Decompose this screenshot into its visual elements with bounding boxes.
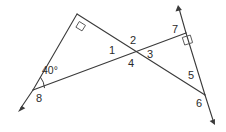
angle-label-3: 3 xyxy=(147,49,153,60)
ray-bottom-right-down xyxy=(205,95,213,120)
angle-label-4: 4 xyxy=(128,58,134,69)
angle-label-5: 5 xyxy=(188,70,194,81)
segment-left-to-right-vertex xyxy=(33,33,186,90)
angle-label-6: 6 xyxy=(196,98,202,109)
ray-right-up xyxy=(180,11,186,34)
angle-label-1: 1 xyxy=(109,45,115,56)
arrowhead-bottom-right-down-icon xyxy=(210,119,215,125)
arrowhead-right-up-icon xyxy=(176,5,182,12)
arrowhead-left-down-icon xyxy=(18,106,25,112)
diagram-canvas xyxy=(0,0,226,132)
angle-label-2: 2 xyxy=(130,35,136,46)
angle-label-7: 7 xyxy=(172,24,178,35)
angle-label-8: 8 xyxy=(36,93,42,104)
segment-apex-to-bottom-right xyxy=(77,14,205,95)
geometry-diagram: 40° 8 1 2 3 4 7 5 6 xyxy=(0,0,226,132)
ray-left-down xyxy=(21,90,34,109)
angle-label-40: 40° xyxy=(42,65,58,76)
right-angle-marker-apex-icon xyxy=(76,22,86,31)
segment-left-to-apex xyxy=(33,14,77,90)
segment-right-vertex-to-bottom-right xyxy=(186,33,205,95)
